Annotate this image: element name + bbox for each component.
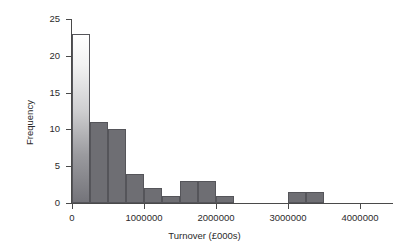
- x-axis-tick: [72, 204, 73, 209]
- x-axis-tick: [216, 204, 217, 209]
- histogram-bar: [180, 181, 198, 203]
- x-axis-tick-label: 1000000: [126, 212, 163, 223]
- x-axis-tick: [144, 204, 145, 209]
- y-axis-tick-label: 20: [34, 50, 60, 61]
- x-axis-tick: [288, 204, 289, 209]
- x-axis-tick-label: 3000000: [270, 212, 307, 223]
- y-axis-tick: [66, 166, 71, 167]
- y-axis-tick: [66, 56, 71, 57]
- x-axis-tick-label: 0: [69, 212, 74, 223]
- histogram-bar: [306, 192, 324, 203]
- histogram-bar: [198, 181, 216, 203]
- y-axis-tick-label: 10: [34, 123, 60, 134]
- y-axis-tick-label: 0: [34, 197, 60, 208]
- histogram-bar: [216, 196, 234, 203]
- histogram-bar: [72, 34, 90, 203]
- y-axis-tick-label: 5: [34, 160, 60, 171]
- histogram-bar: [144, 188, 162, 203]
- x-axis-tick-label: 4000000: [342, 212, 379, 223]
- x-axis-tick: [360, 204, 361, 209]
- y-axis-tick: [66, 203, 71, 204]
- y-axis-tick-label: 25: [34, 13, 60, 24]
- y-axis-tick: [66, 93, 71, 94]
- x-axis-tick-label: 2000000: [198, 212, 235, 223]
- x-axis-line: [71, 203, 393, 204]
- y-axis-title: Frequency: [24, 100, 35, 145]
- histogram-figure: 051015202501000000200000030000004000000F…: [0, 0, 409, 249]
- histogram-bar: [90, 122, 108, 203]
- y-axis-tick: [66, 19, 71, 20]
- histogram-bar: [108, 129, 126, 203]
- y-axis-tick: [66, 129, 71, 130]
- histogram-bar: [288, 192, 306, 203]
- x-axis-title: Turnover (£000s): [0, 230, 409, 241]
- histogram-bar: [126, 174, 144, 203]
- plot-area: 051015202501000000200000030000004000000F…: [0, 0, 409, 249]
- y-axis-tick-label: 15: [34, 87, 60, 98]
- histogram-bar: [162, 196, 180, 203]
